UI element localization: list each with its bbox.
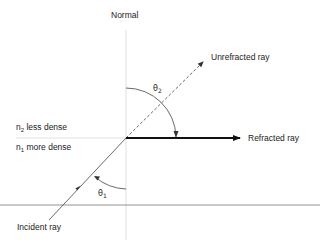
theta1-subscript: 1: [103, 192, 107, 199]
theta2-subscript: 2: [158, 87, 162, 94]
medium-bottom-label: n1 more dense: [16, 143, 71, 153]
unrefracted-ray-line: [126, 62, 203, 138]
medium-bottom-text: more dense: [24, 142, 71, 152]
unrefracted-ray-label: Unrefracted ray: [211, 53, 270, 62]
theta2-label: θ2: [153, 85, 162, 94]
medium-top-label: n2 less dense: [16, 123, 67, 133]
theta1-arc: [95, 177, 126, 189]
theta2-arc: [126, 88, 176, 137]
refracted-ray-label: Refracted ray: [248, 134, 299, 143]
theta2-arrow-icon: [174, 131, 179, 138]
normal-label: Normal: [111, 11, 138, 20]
incident-ray-label: Incident ray: [17, 223, 61, 232]
medium-top-text: less dense: [24, 122, 67, 132]
theta1-label: θ1: [98, 190, 107, 199]
